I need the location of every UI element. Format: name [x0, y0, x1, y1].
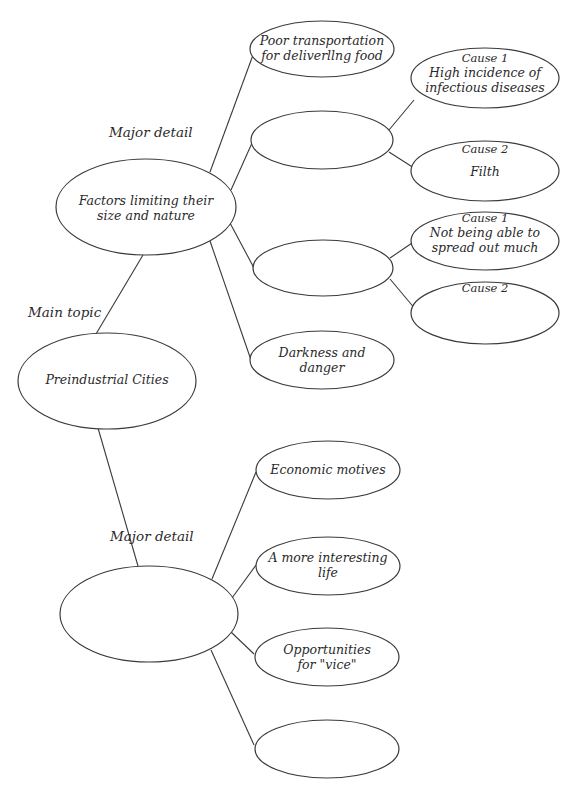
connector-major-economic	[212, 472, 256, 579]
connector-main-factors	[96, 255, 143, 334]
text-interesting-life: A more interesting life	[256, 550, 400, 580]
node-blank-a	[251, 111, 393, 169]
text-vice: Opportunities for "vice"	[255, 642, 399, 672]
text-blank-a-cause2: Filth	[411, 164, 559, 179]
label-major-detail-top: Major detail	[109, 124, 193, 140]
connector-factors-blank-a	[231, 143, 252, 190]
text-economic: Economic motives	[256, 462, 400, 477]
text-main: Preindustrial Cities	[18, 372, 196, 387]
connector-blank-a-cause1	[389, 100, 414, 130]
node-major-blank	[60, 566, 238, 662]
text-poor-transport: Poor transportation for deliverllng food	[250, 33, 394, 63]
text-darkness: Darkness and danger	[250, 345, 394, 375]
connector-major-bottom-blank	[211, 650, 254, 745]
node-blank-b	[253, 240, 393, 296]
tag-blank-b-cause2: Cause 2	[411, 282, 559, 296]
connector-factors-blank-b	[230, 223, 254, 268]
label-major-detail-bottom: Major detail	[110, 528, 194, 544]
connector-factors-darkness	[210, 241, 251, 360]
tag-blank-a-cause1: Cause 1	[411, 52, 559, 66]
tag-blank-b-cause1: Cause 1	[411, 212, 559, 226]
tag-blank-a-cause2: Cause 2	[411, 143, 559, 157]
diagram-canvas	[0, 0, 580, 792]
connector-main-major-blank	[98, 428, 138, 566]
text-factors: Factors limiting their size and nature	[56, 193, 236, 223]
connector-major-vice	[231, 632, 254, 654]
connector-major-interesting	[232, 565, 256, 598]
text-blank-b-cause1: Not being able to spread out much	[411, 225, 559, 255]
text-blank-a-cause1: High incidence of infectious diseases	[411, 65, 559, 95]
node-bottom-blank	[255, 720, 399, 778]
label-main-topic: Main topic	[28, 304, 101, 320]
